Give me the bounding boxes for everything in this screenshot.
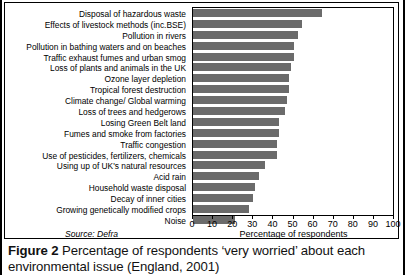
category-label: Tropical forest destruction: [5, 85, 189, 96]
plot-area: [192, 7, 394, 215]
x-tick-label: 70: [328, 219, 338, 229]
bar-row: [193, 160, 394, 171]
bar-row: [193, 193, 394, 204]
bar: [193, 74, 289, 82]
category-label: Household waste disposal: [5, 183, 189, 194]
bar-row: [193, 30, 394, 41]
category-label: Use of pesticides, fertilizers, chemical…: [5, 151, 189, 162]
bar-row: [193, 41, 394, 52]
category-label: Acid rain: [5, 172, 189, 183]
source-note: Source: Defra: [65, 229, 118, 239]
category-label: Pollution in bathing waters and on beach…: [5, 42, 189, 53]
x-axis-title: Percentage of respondents: [192, 229, 395, 239]
category-label: Loss of plants and animals in the UK: [5, 63, 189, 74]
figure-page: Disposal of hazardous wasteEffects of li…: [0, 0, 405, 275]
bar: [193, 85, 289, 93]
bar-row: [193, 150, 394, 161]
bar: [193, 63, 291, 71]
bar-row: [193, 62, 394, 73]
category-label: Losing Green Belt land: [5, 118, 189, 129]
category-label: Pollution in rivers: [5, 31, 189, 42]
category-label: Effects of livestock methods (inc.BSE): [5, 20, 189, 31]
x-tick-label: 80: [348, 219, 358, 229]
bar: [193, 42, 294, 50]
page-left-rule: [0, 0, 2, 275]
category-label: Noise: [5, 216, 189, 227]
bar: [193, 96, 287, 104]
bar-row: [193, 19, 394, 30]
category-axis-labels: Disposal of hazardous wasteEffects of li…: [5, 9, 189, 216]
category-label: Using up of UK's natural resources: [5, 161, 189, 172]
x-tick-label: 0: [189, 219, 194, 229]
bar: [193, 20, 302, 28]
figure-caption-label: Figure 2: [8, 243, 59, 258]
bar: [193, 140, 277, 148]
bar: [193, 183, 255, 191]
bar: [193, 161, 265, 169]
category-label: Traffic congestion: [5, 140, 189, 151]
figure-caption-text: Percentage of respondents ‘very worried’…: [8, 243, 365, 274]
x-tick-label: 20: [227, 219, 237, 229]
bar-row: [193, 171, 394, 182]
x-tick-label: 100: [385, 219, 400, 229]
bar: [193, 107, 285, 115]
bar: [193, 53, 294, 61]
figure-caption: Figure 2 Percentage of respondents ‘very…: [8, 243, 396, 274]
x-tick-label: 10: [207, 219, 217, 229]
bar: [193, 31, 298, 39]
category-label: Loss of trees and hedgerows: [5, 107, 189, 118]
bar-row: [193, 128, 394, 139]
category-label: Ozone layer depletion: [5, 74, 189, 85]
bar-row: [193, 182, 394, 193]
bar: [193, 151, 277, 159]
bar: [193, 129, 279, 137]
category-label: Disposal of hazardous waste: [5, 9, 189, 20]
bar-series: [193, 8, 394, 215]
bar: [193, 172, 259, 180]
x-tick-label: 90: [368, 219, 378, 229]
bar-row: [193, 8, 394, 19]
bar: [193, 9, 322, 17]
category-label: Traffic exhaust fumes and urban smog: [5, 53, 189, 64]
bar: [193, 118, 279, 126]
bar-row: [193, 117, 394, 128]
x-tick-label: 60: [308, 219, 318, 229]
category-label: Climate change/ Global warming: [5, 96, 189, 107]
bar-row: [193, 84, 394, 95]
category-label: Decay of inner cities: [5, 194, 189, 205]
bar-row: [193, 73, 394, 84]
category-label: Growing genetically modified crops: [5, 205, 189, 216]
x-tick-label: 40: [267, 219, 277, 229]
bar-row: [193, 52, 394, 63]
bar-row: [193, 139, 394, 150]
bar: [193, 205, 249, 213]
bar-row: [193, 204, 394, 215]
category-label: Fumes and smoke from factories: [5, 129, 189, 140]
chart-frame: Disposal of hazardous wasteEffects of li…: [4, 2, 399, 239]
x-tick-label: 30: [247, 219, 257, 229]
bar: [193, 194, 253, 202]
bar-row: [193, 95, 394, 106]
x-tick-label: 50: [287, 219, 297, 229]
bar-row: [193, 106, 394, 117]
